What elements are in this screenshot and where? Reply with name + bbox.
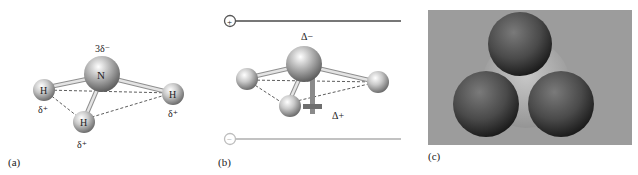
delta-plus-label: Δ+ xyxy=(332,110,344,121)
caption-a: (a) xyxy=(8,156,20,168)
n-symbol: N xyxy=(97,69,105,81)
h-front-symbol: H xyxy=(80,117,87,128)
atom-left xyxy=(236,68,258,90)
delta-minus-label: Δ− xyxy=(301,31,313,42)
panel-b-dipole-in-field: + − Δ− Δ+ (b) xyxy=(210,0,425,175)
outer-sphere-top xyxy=(488,12,552,76)
base-triangle-dashes xyxy=(44,90,172,120)
outer-sphere-right xyxy=(528,71,594,137)
ammonia-space-filling-model xyxy=(425,0,638,175)
h-right-symbol: H xyxy=(169,89,176,100)
caption-b: (b) xyxy=(218,156,231,168)
panel-a-ball-and-stick: N 3δ⁻ H δ⁺ H δ⁺ H δ⁺ (a) xyxy=(0,0,210,175)
h-front-charge: δ⁺ xyxy=(77,139,87,150)
outer-sphere-left xyxy=(453,71,519,137)
ammonia-ball-stick-diagram: N 3δ⁻ H δ⁺ H δ⁺ H δ⁺ xyxy=(0,0,210,175)
atom-front xyxy=(279,95,301,117)
atom-right xyxy=(367,71,389,93)
central-atom xyxy=(286,46,322,82)
h-left-charge: δ⁺ xyxy=(38,104,48,115)
ammonia-dipole-diagram: + − Δ− Δ+ xyxy=(210,0,425,175)
positive-sign: + xyxy=(227,17,232,27)
h-left-symbol: H xyxy=(40,85,47,96)
h-right-charge: δ⁺ xyxy=(168,108,178,119)
n-charge-label: 3δ⁻ xyxy=(95,43,110,54)
panel-c-space-filling: (c) xyxy=(425,0,638,175)
negative-sign: − xyxy=(227,134,232,144)
caption-c: (c) xyxy=(428,150,440,162)
